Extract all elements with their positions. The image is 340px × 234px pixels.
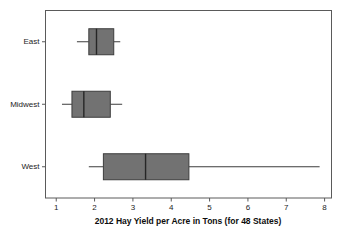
x-tick-label: 8 [322,203,327,212]
boxplot-chart: 12345678 EastMidwestWest 2012 Hay Yield … [0,0,340,234]
chart-background [0,0,340,234]
x-tick-label: 5 [207,203,212,212]
x-tick-label: 4 [169,203,174,212]
plot-svg: 12345678 EastMidwestWest 2012 Hay Yield … [0,0,340,234]
iqr-box [89,29,114,55]
y-category-label-midwest: Midwest [10,100,40,109]
x-axis-title: 2012 Hay Yield per Acre in Tons (for 48 … [95,216,282,226]
iqr-box [72,91,110,117]
x-tick-label: 1 [54,203,59,212]
x-tick-label: 6 [246,203,251,212]
x-tick-label: 2 [92,203,97,212]
x-tick-label: 7 [284,203,289,212]
x-tick-label: 3 [131,203,136,212]
y-category-label-west: West [21,162,40,171]
y-category-label-east: East [23,37,40,46]
